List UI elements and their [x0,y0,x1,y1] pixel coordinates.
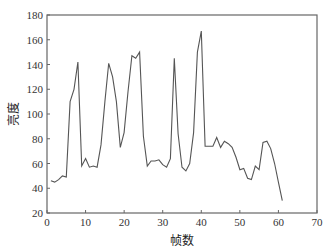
x-tick-label: 30 [157,216,169,228]
x-tick-label: 40 [196,216,208,228]
y-tick-label: 160 [27,34,44,46]
brightness-series-line [51,31,282,201]
y-tick-label: 140 [27,59,44,71]
x-tick-label: 10 [80,216,92,228]
line-chart: 20406080100120140160180 010203040506070 … [0,0,333,250]
y-axis-label: 亮度 [6,102,21,126]
y-tick-label: 40 [32,182,44,194]
x-tick-label: 70 [312,216,324,228]
x-tick-label: 60 [273,216,285,228]
y-tick-label: 60 [32,158,44,170]
y-tick-label: 100 [27,108,44,120]
y-tick-label: 20 [32,207,44,219]
x-axis-label: 帧数 [170,233,194,248]
x-tick-label: 0 [44,216,50,228]
y-tick-label: 120 [27,83,44,95]
plot-frame [47,15,317,213]
y-tick-label: 180 [27,9,44,21]
x-tick-label: 50 [234,216,246,228]
y-tick-label: 80 [32,133,44,145]
x-tick-label: 20 [119,216,131,228]
